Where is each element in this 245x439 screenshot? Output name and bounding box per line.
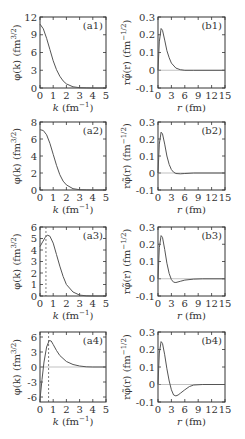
x-axis-label: k (fm−1) [53, 415, 94, 427]
x-tick-label: 3 [168, 298, 174, 309]
x-tick-label: 9 [195, 90, 201, 101]
y-tick-label: -3 [27, 377, 37, 388]
panel-tag: (a3) [83, 230, 103, 241]
y-tick-label: 0.3 [139, 117, 155, 128]
y-tick-label: 0.2 [139, 344, 155, 355]
y-axis-label: rφ̃(r) (fm−1/2) [120, 20, 132, 86]
data-curve [158, 29, 225, 71]
x-axis-label: k (fm−1) [53, 309, 94, 321]
x-tick-label: 5 [103, 90, 109, 101]
y-tick-label: -6 [27, 392, 37, 403]
y-tick-label: -0.1 [136, 291, 155, 302]
y-tick-label: 0.1 [139, 256, 155, 267]
y-tick-label: 0 [31, 83, 37, 94]
y-tick-label: 6 [31, 47, 37, 58]
data-curve [40, 235, 106, 296]
y-tick-label: 0.3 [139, 12, 155, 23]
y-tick-label: 9 [31, 29, 37, 40]
y-tick-label: 3 [31, 65, 37, 76]
y-tick-label: -0.1 [136, 397, 155, 408]
y-axis-label: φ(k) (fm3/2) [10, 339, 22, 395]
y-tick-label: 0.3 [139, 222, 155, 233]
data-curve [158, 236, 225, 283]
y-tick-label: -0.1 [136, 83, 155, 94]
x-tick-label: 12 [205, 192, 218, 203]
x-tick-label: 6 [182, 90, 188, 101]
y-tick-label: 0 [31, 362, 37, 373]
y-tick-label: 4 [31, 245, 37, 256]
x-tick-label: 15 [219, 192, 232, 203]
x-tick-label: 0 [37, 298, 43, 309]
x-tick-label: 2 [63, 192, 69, 203]
y-tick-label: 0.1 [139, 362, 155, 373]
x-tick-label: 9 [195, 192, 201, 203]
y-axis-label: rφ̃(r) (fm−1/2) [120, 123, 132, 189]
y-tick-label: 12 [24, 12, 37, 23]
x-axis-label: r (fm) [177, 416, 206, 427]
x-tick-label: 6 [182, 298, 188, 309]
panel-tag: (a1) [83, 20, 103, 31]
y-tick-label: 6 [31, 222, 37, 233]
panel-b4: 03691215-0.100.10.20.3(b4)r (fm)rφ̃(r) (… [120, 327, 231, 428]
y-tick-label: 0.3 [139, 327, 155, 338]
y-tick-label: -0.1 [136, 185, 155, 196]
x-tick-label: 3 [76, 404, 82, 415]
x-tick-label: 0 [155, 404, 161, 415]
x-axis-label: r (fm) [177, 102, 206, 113]
y-tick-label: 0.2 [139, 239, 155, 250]
x-tick-label: 6 [182, 404, 188, 415]
panel-b2: 03691215-0.100.10.20.3(b2)r (fm)rφ̃(r) (… [120, 117, 231, 216]
y-tick-label: 0 [31, 291, 37, 302]
x-tick-label: 3 [76, 298, 82, 309]
x-tick-label: 0 [155, 90, 161, 101]
panel-tag: (a4) [83, 335, 103, 346]
x-tick-label: 4 [90, 404, 96, 415]
y-tick-label: 3 [31, 256, 37, 267]
panel-tag: (b4) [201, 335, 222, 346]
panel-b1: 03691215-0.100.10.20.3(b1)r (fm)rφ̃(r) (… [120, 12, 231, 114]
y-tick-label: 4 [31, 151, 37, 162]
x-tick-label: 3 [168, 90, 174, 101]
x-tick-label: 2 [63, 404, 69, 415]
x-tick-label: 6 [182, 192, 188, 203]
x-tick-label: 15 [219, 90, 232, 101]
y-tick-label: 6 [31, 134, 37, 145]
x-tick-label: 2 [63, 298, 69, 309]
data-curve [40, 341, 106, 400]
figure: 012345036912(a1)k (fm−1)φ(k) (fm3/2)0369… [0, 0, 245, 439]
panel-tag: (a2) [83, 125, 103, 136]
x-tick-label: 9 [195, 298, 201, 309]
panel-tag: (b2) [201, 125, 222, 136]
x-tick-label: 0 [37, 90, 43, 101]
data-curve [40, 130, 106, 190]
data-curve [158, 132, 225, 174]
x-tick-label: 5 [103, 298, 109, 309]
y-tick-label: 0.1 [139, 151, 155, 162]
x-tick-label: 1 [50, 298, 56, 309]
x-tick-label: 0 [37, 404, 43, 415]
y-tick-label: 0 [149, 273, 155, 284]
data-curve [158, 342, 225, 396]
x-tick-label: 4 [90, 298, 96, 309]
y-tick-label: 8 [31, 117, 37, 128]
x-tick-label: 3 [76, 90, 82, 101]
x-tick-label: 1 [50, 404, 56, 415]
x-axis-label: r (fm) [177, 204, 206, 215]
panel-a2: 01234502468(a2)k (fm−1)φ(k) (fm3/2) [10, 117, 109, 216]
x-tick-label: 5 [103, 404, 109, 415]
y-axis-label: φ(k) (fm3/2) [10, 233, 22, 289]
y-tick-label: 0.2 [139, 134, 155, 145]
x-tick-label: 2 [63, 90, 69, 101]
panel-tag: (b1) [201, 20, 222, 31]
y-tick-label: 0 [149, 379, 155, 390]
y-tick-label: 0.2 [139, 29, 155, 40]
x-tick-label: 9 [195, 404, 201, 415]
x-tick-label: 1 [50, 192, 56, 203]
y-axis-label: φ(k) (fm3/2) [10, 128, 22, 184]
panel-tag: (b3) [201, 230, 222, 241]
y-tick-label: 0 [31, 185, 37, 196]
y-tick-label: 0.1 [139, 47, 155, 58]
x-tick-label: 15 [219, 404, 232, 415]
x-tick-label: 12 [205, 404, 218, 415]
y-tick-label: 5 [31, 233, 37, 244]
